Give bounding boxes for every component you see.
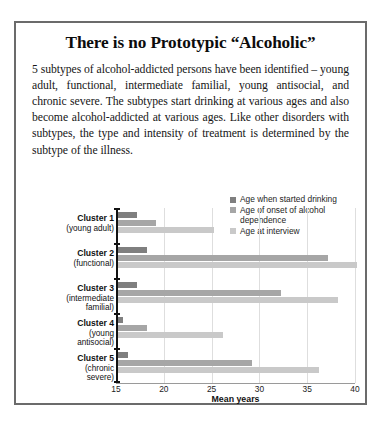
grid-line <box>212 208 213 383</box>
chart-bar <box>118 262 357 268</box>
y-axis-category-label: Cluster 2(functional) <box>30 249 114 268</box>
y-axis-tick <box>114 278 120 280</box>
category-subtitle: (intermediate familial) <box>30 294 114 312</box>
legend-item-started-drinking[interactable]: Age when started drinking <box>230 195 358 205</box>
category-name: Cluster 5 <box>30 354 114 364</box>
category-subtitle: (young adult) <box>30 224 114 233</box>
category-name: Cluster 4 <box>30 319 114 329</box>
chart-bar <box>118 255 328 261</box>
y-axis-category-label: Cluster 5(chronic severe) <box>30 354 114 382</box>
chart-bar <box>118 367 319 373</box>
page-title: There is no Prototypic “Alcoholic” <box>30 34 351 53</box>
y-axis-category-label: Cluster 1(young adult) <box>30 214 114 233</box>
x-axis-tick-label: 30 <box>255 384 264 394</box>
x-axis-tick-label: 15 <box>111 384 120 394</box>
grid-line <box>307 208 308 383</box>
slide-page: There is no Prototypic “Alcoholic” 5 sub… <box>0 0 381 425</box>
category-subtitle: (functional) <box>30 259 114 268</box>
chart-bar <box>118 332 223 338</box>
y-axis-category-label: Cluster 3(intermediate familial) <box>30 284 114 312</box>
category-name: Cluster 1 <box>30 214 114 224</box>
y-axis-category-label: Cluster 4(young antisocial) <box>30 319 114 347</box>
chart-bar <box>118 325 147 331</box>
slide-inner: There is no Prototypic “Alcoholic” 5 sub… <box>16 23 365 403</box>
chart-bar <box>118 360 252 366</box>
grid-line <box>355 208 356 383</box>
category-name: Cluster 3 <box>30 284 114 294</box>
plot-area: Cluster 1(young adult)Cluster 2(function… <box>30 208 355 383</box>
axis-area <box>116 208 355 383</box>
chart-bar <box>118 297 338 303</box>
x-axis-tick-label: 20 <box>159 384 168 394</box>
chart-bar <box>118 352 128 358</box>
y-axis-labels: Cluster 1(young adult)Cluster 2(function… <box>30 208 114 383</box>
y-axis-tick <box>114 348 120 350</box>
slide-frame: There is no Prototypic “Alcoholic” 5 sub… <box>14 21 367 405</box>
grid-line <box>164 208 165 383</box>
category-name: Cluster 2 <box>30 249 114 259</box>
chart-bar <box>118 212 137 218</box>
category-subtitle: (chronic severe) <box>30 364 114 382</box>
chart-bar <box>118 247 147 253</box>
chart-bar <box>118 290 281 296</box>
category-subtitle: (young antisocial) <box>30 329 114 347</box>
y-axis-tick <box>114 313 120 315</box>
grid-line <box>259 208 260 383</box>
chart-bar <box>118 317 123 323</box>
chart-bar <box>118 220 156 226</box>
chart-bar <box>118 282 137 288</box>
body-paragraph: 5 subtypes of alcohol-addicted persons h… <box>32 62 349 159</box>
bar-chart: Age when started drinking Age of onset o… <box>30 190 355 404</box>
x-axis-tick-label: 25 <box>207 384 216 394</box>
legend-label: Age when started drinking <box>240 195 337 205</box>
x-axis-tick-label: 40 <box>350 384 359 394</box>
x-axis-tick-label: 35 <box>303 384 312 394</box>
x-axis-title: Mean years <box>116 394 355 404</box>
legend-swatch-icon <box>230 197 236 203</box>
y-axis-tick <box>114 243 120 245</box>
y-axis-tick <box>114 208 120 210</box>
chart-bar <box>118 227 214 233</box>
